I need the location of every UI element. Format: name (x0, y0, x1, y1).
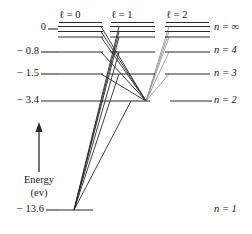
transition-lines-l0 (101, 27, 146, 102)
y-tick-label-neg-13-6: − 13.6 (0, 204, 44, 215)
energy-axis-label: Energy (5, 175, 73, 186)
levels-column-l2 (165, 27, 210, 75)
transition-line (146, 74, 169, 101)
energy-level-diagram: 0 − 0.8 − 1.5 − 3.4 − 13.6 ℓ = 0 ℓ = 1 ℓ… (0, 0, 252, 234)
shell-label-n-4: n = 4 (214, 45, 237, 56)
shell-label-n-2: n = 2 (214, 95, 237, 106)
transition-line (74, 52, 119, 210)
energy-axis-arrow (35, 122, 42, 172)
shell-label-n-3: n = 3 (214, 68, 237, 79)
y-tick-label-neg-0-8: − 0.8 (0, 46, 39, 57)
transition-line (74, 101, 131, 210)
energy-axis-unit: (ev) (5, 188, 73, 199)
shell-label-n-infinity: n = ∞ (214, 22, 239, 33)
y-tick-label-neg-1-5: − 1.5 (0, 68, 39, 79)
y-tick-label-neg-3-4: − 3.4 (0, 95, 39, 106)
diagram-canvas (0, 0, 252, 234)
transition-line (146, 52, 169, 101)
column-header-l1: ℓ = 1 (111, 10, 132, 21)
column-header-l0: ℓ = 0 (59, 10, 80, 21)
levels-column-l0 (58, 27, 103, 75)
column-header-l2: ℓ = 2 (166, 10, 187, 21)
transition-lines-l2 (146, 27, 169, 102)
levels-column-l1 (110, 27, 155, 75)
transition-line (74, 37, 119, 210)
transition-line (74, 74, 119, 210)
transition-line (101, 74, 146, 101)
y-tick-label-0: 0 (0, 22, 46, 33)
transition-line (146, 37, 169, 101)
shell-label-n-1: n = 1 (214, 204, 237, 215)
